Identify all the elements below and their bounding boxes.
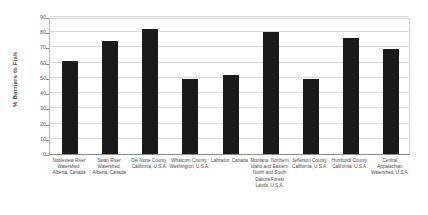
y-tick-label: 70 xyxy=(22,45,46,50)
plot-area xyxy=(49,18,410,155)
x-tick-label: Whatcom County, Washington, U.S.A. xyxy=(169,158,209,170)
y-tick-mark xyxy=(46,64,49,65)
bar xyxy=(263,32,279,154)
y-tick-mark xyxy=(46,109,49,110)
bar-chart: % Barriers to Fish 0102030405060708090 N… xyxy=(0,0,428,215)
y-tick-mark xyxy=(46,79,49,80)
y-tick-label: 20 xyxy=(22,122,46,127)
y-tick-mark xyxy=(46,48,49,49)
x-tick-label: Central Appalachian Watershed, U.S.A. xyxy=(370,158,410,177)
x-tick-label: Nobleview River Watershed, Alberta, Cana… xyxy=(49,158,89,177)
bar xyxy=(223,75,239,154)
x-axis-labels: Nobleview River Watershed, Alberta, Cana… xyxy=(49,158,410,215)
y-tick-mark xyxy=(46,94,49,95)
bar xyxy=(142,29,158,154)
y-axis-title-text: % Barriers to Fish xyxy=(11,52,18,107)
y-tick-mark xyxy=(46,18,49,19)
x-tick-label: Swan River Watershed, Alberta, Canada xyxy=(89,158,129,177)
y-tick-mark xyxy=(46,155,49,156)
y-tick-label: 80 xyxy=(22,30,46,35)
bar xyxy=(303,79,319,154)
y-tick-label: 10 xyxy=(22,137,46,142)
x-tick-label: Jefferson County, California, U.S.A. xyxy=(290,158,330,170)
y-tick-mark xyxy=(46,33,49,34)
y-tick-label: 0 xyxy=(22,152,46,157)
x-tick-label: Montana, Northern Idaho and Eastern Nort… xyxy=(250,158,290,189)
y-tick-label: 90 xyxy=(22,15,46,20)
bar xyxy=(343,38,359,154)
y-tick-label: 50 xyxy=(22,76,46,81)
bar xyxy=(62,61,78,154)
bar xyxy=(182,79,198,154)
x-tick-label: Del Norte County, California, U.S.A. xyxy=(129,158,169,170)
bars-layer xyxy=(50,19,409,154)
x-tick-label: Humboldt County, California, U.S.A. xyxy=(330,158,370,170)
y-tick-label: 40 xyxy=(22,91,46,96)
y-tick-label: 60 xyxy=(22,61,46,66)
x-tick-label: Labrador, Canada xyxy=(210,158,250,164)
y-tick-mark xyxy=(46,125,49,126)
bar xyxy=(383,49,399,154)
bar xyxy=(102,41,118,154)
y-tick-mark xyxy=(46,140,49,141)
gridline xyxy=(50,16,409,17)
y-tick-label: 30 xyxy=(22,106,46,111)
